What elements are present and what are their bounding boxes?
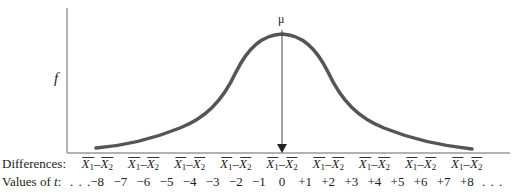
t-value-tick: +6 xyxy=(414,174,428,190)
differences-row-label: Differences: xyxy=(2,156,66,172)
t-value-tick: +2 xyxy=(321,174,335,190)
mu-label: μ xyxy=(278,12,284,27)
t-value-tick: −8 xyxy=(90,174,104,190)
difference-tick-label: X1–X2 xyxy=(128,156,159,172)
difference-tick-label: X1–X2 xyxy=(220,156,251,172)
t-value-tick: −7 xyxy=(113,174,127,190)
t-value-tick: +8 xyxy=(460,174,474,190)
leading-ellipsis: . . . xyxy=(70,174,91,190)
t-value-tick: −2 xyxy=(229,174,243,190)
distribution-curve xyxy=(96,34,472,149)
distribution-chart xyxy=(0,0,525,194)
difference-tick-label: X1–X2 xyxy=(174,156,205,172)
difference-tick-label: X1–X2 xyxy=(451,156,482,172)
mean-arrow-icon xyxy=(277,144,287,153)
t-value-tick: +5 xyxy=(391,174,405,190)
difference-tick-label: X1–X2 xyxy=(266,156,297,172)
t-value-tick: −3 xyxy=(206,174,220,190)
y-axis-label: f xyxy=(54,70,58,87)
t-value-tick: 0 xyxy=(279,174,286,190)
t-value-tick: −1 xyxy=(252,174,266,190)
difference-tick-label: X1–X2 xyxy=(81,156,112,172)
trailing-ellipsis: . . . xyxy=(482,174,503,190)
t-value-tick: +3 xyxy=(344,174,358,190)
t-value-tick: −5 xyxy=(160,174,174,190)
t-value-tick: +7 xyxy=(437,174,451,190)
t-value-tick: −6 xyxy=(136,174,150,190)
t-value-tick: +4 xyxy=(367,174,381,190)
t-value-tick: −4 xyxy=(183,174,197,190)
difference-tick-label: X1–X2 xyxy=(405,156,436,172)
difference-tick-label: X1–X2 xyxy=(359,156,390,172)
values-of-t-row-label: Values of t: xyxy=(2,174,61,190)
t-value-tick: +1 xyxy=(298,174,312,190)
difference-tick-label: X1–X2 xyxy=(312,156,343,172)
